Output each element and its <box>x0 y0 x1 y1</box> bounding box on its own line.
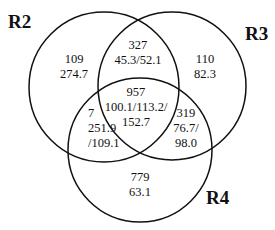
region-value: 76.7/ <box>173 121 198 136</box>
region-value: 98.0 <box>173 136 198 151</box>
region-r4-only: 779 63.1 <box>129 170 151 200</box>
region-count: 7 <box>88 106 120 121</box>
region-count: 957 <box>105 85 168 100</box>
region-r3-r4: 319 76.7/ 98.0 <box>173 106 198 151</box>
region-value: 45.3/52.1 <box>114 53 161 68</box>
region-count: 109 <box>60 52 88 67</box>
region-count: 327 <box>114 38 161 53</box>
set-label-r4: R4 <box>206 188 229 207</box>
region-count: 779 <box>129 170 151 185</box>
region-r2-r4: 7 251.9 /109.1 <box>88 106 120 151</box>
set-label-r3: R3 <box>245 24 268 43</box>
region-value: 82.3 <box>194 67 216 82</box>
region-r2-only: 109 274.7 <box>60 52 88 82</box>
region-value: 63.1 <box>129 185 151 200</box>
region-value: 274.7 <box>60 67 88 82</box>
region-value: 251.9 <box>88 121 120 136</box>
region-r2-r3: 327 45.3/52.1 <box>114 38 161 68</box>
region-count: 110 <box>194 52 216 67</box>
set-label-r2: R2 <box>8 12 31 31</box>
region-value: /109.1 <box>88 136 120 151</box>
region-r3-only: 110 82.3 <box>194 52 216 82</box>
region-count: 319 <box>173 106 198 121</box>
